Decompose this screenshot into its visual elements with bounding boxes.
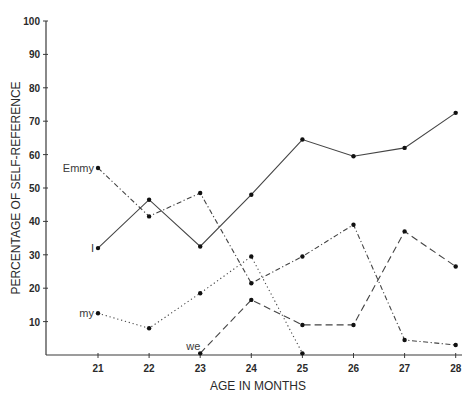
series-we: we [185,229,458,355]
y-tick-label: 50 [29,183,41,194]
series-label: my [79,307,94,319]
y-tick-label: 70 [29,116,41,127]
data-point [454,343,458,347]
y-axis-title: PERCENTAGE OF SELF-REFERENCE [9,81,23,294]
data-point [300,254,304,258]
data-point [402,229,406,233]
data-point [300,137,304,141]
series-lines: EmmyImywe [63,111,458,356]
data-point [96,311,100,315]
data-point [147,326,151,330]
x-axis-title: AGE IN MONTHS [210,379,306,393]
data-point [300,351,304,355]
data-point [454,111,458,115]
data-point [147,214,151,218]
x-tick-label: 24 [246,363,258,374]
x-tick-label: 23 [195,363,207,374]
data-point [249,254,253,258]
data-point [351,154,355,158]
x-tick-label: 27 [399,363,411,374]
y-tick-label: 80 [29,83,41,94]
data-point [402,146,406,150]
series-line [98,113,456,248]
data-point [300,323,304,327]
data-point [96,166,100,170]
x-tick-label: 21 [92,363,104,374]
series-line [98,257,302,354]
data-point [454,264,458,268]
data-point [198,244,202,248]
y-tick-label: 20 [29,283,41,294]
x-tick-label: 25 [297,363,309,374]
series-emmy: Emmy [63,162,458,347]
x-tick-label: 26 [348,363,360,374]
line-chart: 1020304050607080901002122232425262728 Em… [0,0,472,401]
y-tick-label: 10 [29,317,41,328]
y-tick-label: 90 [29,49,41,60]
series-label: Emmy [63,162,95,174]
data-point [351,223,355,227]
y-tick-label: 100 [23,16,40,27]
y-tick-label: 60 [29,150,41,161]
data-point [198,191,202,195]
series-label: we [185,340,200,352]
series-line [98,168,456,345]
data-point [249,192,253,196]
data-point [249,298,253,302]
data-point [147,197,151,201]
data-point [198,291,202,295]
x-tick-label: 28 [450,363,462,374]
x-tick-label: 22 [144,363,156,374]
y-tick-label: 40 [29,216,41,227]
data-point [402,338,406,342]
data-point [249,281,253,285]
data-point [351,323,355,327]
y-tick-label: 30 [29,250,41,261]
series-line [200,231,456,353]
series-label: I [91,242,94,254]
data-point [96,246,100,250]
